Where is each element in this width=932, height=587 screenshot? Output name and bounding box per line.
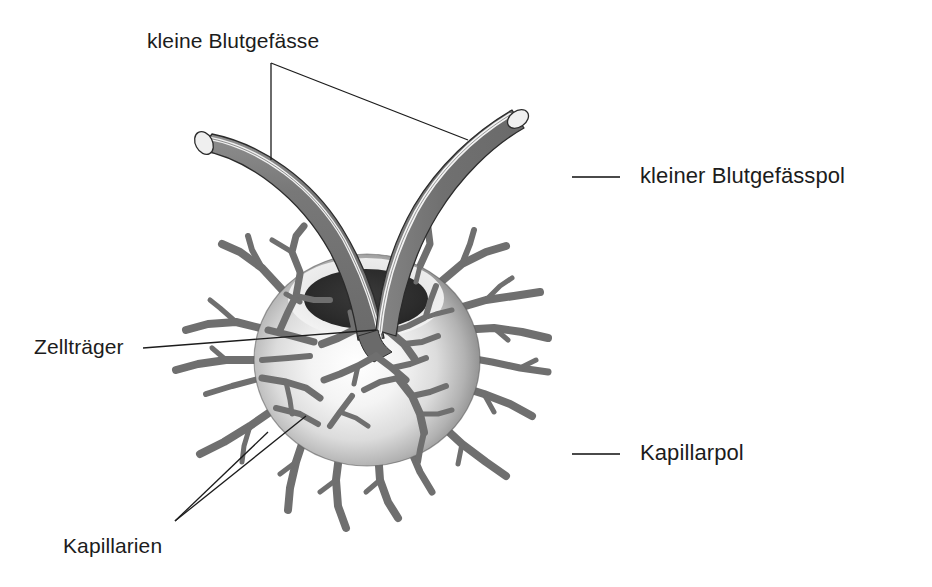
leader-dashes xyxy=(572,177,620,454)
label-kleine-blutgefaesse: kleine Blutgefässe xyxy=(147,28,319,53)
figure-root: kleine Blutgefässe Zellträger Kapillarie… xyxy=(0,0,932,587)
label-kapillarpol: Kapillarpol xyxy=(640,440,744,465)
label-zelltraeger: Zellträger xyxy=(34,334,124,359)
anatomical-diagram xyxy=(0,0,932,587)
label-kapillarien: Kapillarien xyxy=(63,533,162,558)
leader-kleine-blutgefaesse-right xyxy=(271,63,468,140)
label-kleiner-blutgefaesspol: kleiner Blutgefässpol xyxy=(640,163,845,188)
